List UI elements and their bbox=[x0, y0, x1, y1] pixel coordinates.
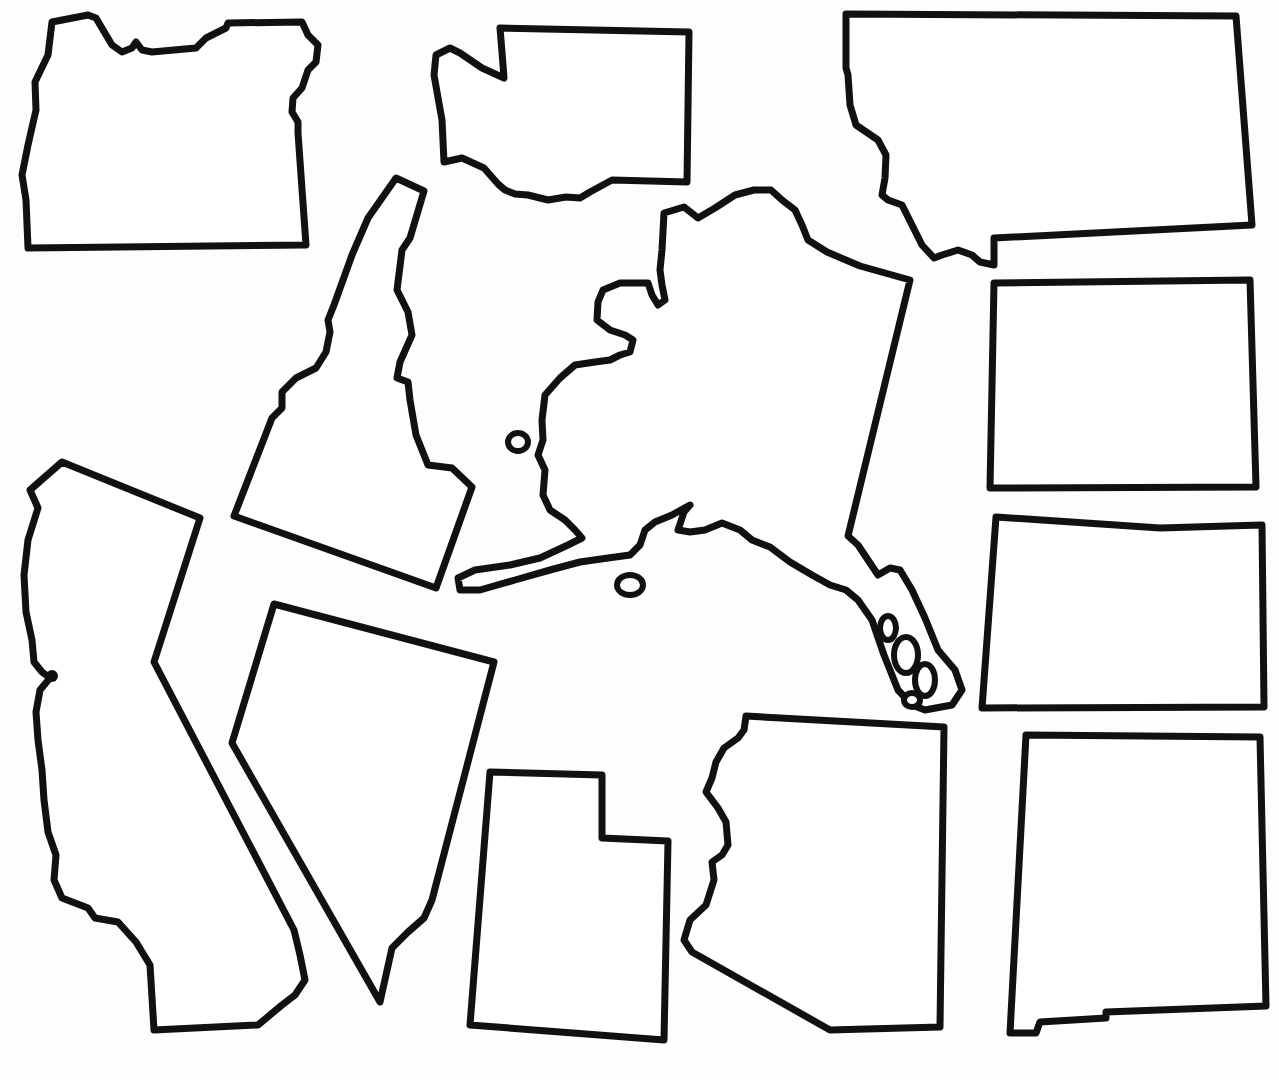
st-lawrence-island-outline bbox=[508, 433, 528, 451]
states-layer bbox=[22, 14, 1266, 1040]
sf-bay-marker bbox=[46, 670, 58, 682]
western-states-map bbox=[0, 0, 1279, 1080]
state-outline-new-mexico bbox=[1010, 735, 1266, 1033]
alaska-panhandle-island-1 bbox=[880, 616, 896, 640]
state-outline-arizona bbox=[684, 716, 944, 1030]
state-outline-oregon bbox=[22, 15, 318, 248]
alaska-panhandle-island-2 bbox=[894, 637, 918, 673]
alaska-panhandle-island-3 bbox=[915, 664, 935, 696]
state-outline-colorado bbox=[982, 517, 1264, 708]
state-outline-wyoming bbox=[990, 280, 1256, 488]
alaska-panhandle-island-4 bbox=[904, 693, 920, 707]
state-outline-montana bbox=[846, 14, 1252, 265]
markers-layer bbox=[46, 670, 58, 682]
kodiak-island-outline bbox=[617, 575, 643, 595]
state-outline-utah bbox=[470, 772, 668, 1040]
state-outline-washington bbox=[434, 28, 689, 200]
